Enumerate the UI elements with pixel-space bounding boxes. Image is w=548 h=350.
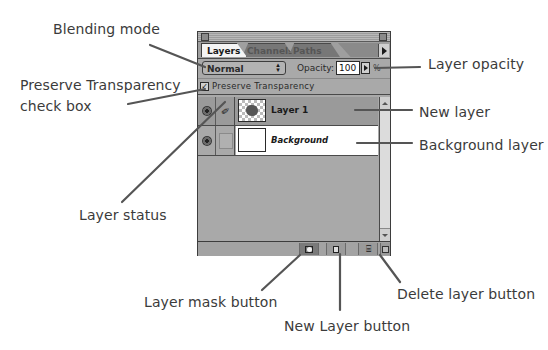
layer-row-layer-1[interactable]: ✐ Layer 1 [198,97,378,126]
layers-panel: Paths Channels Layers Normal ▴▾ Opacity:… [197,31,391,256]
opacity-input[interactable]: 100 [336,61,360,75]
scroll-up-arrow-icon[interactable] [380,97,390,110]
layer-thumbnail [238,99,266,122]
scroll-down-arrow-icon[interactable] [380,228,390,241]
preserve-transparency-checkbox[interactable]: ✓ [200,82,209,91]
visibility-toggle[interactable] [198,126,216,155]
blending-mode-select[interactable]: Normal ▴▾ [202,61,286,75]
resize-grip-icon [382,246,389,253]
zoom-box-icon[interactable] [379,33,387,41]
layer-name: Layer 1 [271,97,308,124]
tab-strip-fill [338,43,380,57]
visibility-toggle[interactable] [198,97,216,125]
mode-opacity-row: Normal ▴▾ Opacity: 100 % [198,59,390,79]
blending-mode-value: Normal [207,64,244,74]
callout-preserve-transparency-line1: Preserve Transparency [20,76,181,95]
layer-content: Background [236,126,378,155]
layer-thumbnail [238,128,266,152]
brush-icon: ✐ [220,105,230,117]
new-layer-icon [333,246,339,253]
preserve-transparency-label: Preserve Transparency [212,80,315,93]
new-layer-button[interactable] [326,243,346,255]
opacity-slider-arrow-icon[interactable] [361,62,370,74]
select-arrows-icon: ▴▾ [274,63,282,73]
callout-delete-layer-button: Delete layer button [397,285,535,304]
opacity-percent-sign: % [373,62,381,75]
layer-mask-button[interactable] [299,243,319,255]
tab-channels[interactable]: Channels [242,43,294,57]
layer-row-background[interactable]: Background [198,126,378,156]
close-box-icon[interactable] [201,33,209,41]
resize-handle[interactable] [380,243,390,255]
opacity-label: Opacity: [297,62,334,75]
callout-layer-mask-button: Layer mask button [144,293,277,312]
thumbnail-shape [246,105,258,116]
callout-new-layer: New layer [419,103,490,122]
trash-icon: ⌸ [366,244,371,254]
panel-bottom-bar: ⌸ [198,241,390,256]
layer-content: Layer 1 [236,97,378,125]
panel-menu-arrow-icon[interactable] [378,44,389,57]
empty-status-icon [219,133,233,149]
callout-layer-opacity: Layer opacity [428,55,524,74]
layer-list-scrollbar[interactable] [379,97,390,241]
callout-blending-mode: Blending mode [53,20,160,39]
mask-icon [305,246,313,253]
callout-layer-status: Layer status [79,206,167,225]
panel-title-bar[interactable] [198,32,390,42]
tab-layers[interactable]: Layers [201,43,247,57]
callout-background-layer: Background layer [419,136,544,155]
tab-paths[interactable]: Paths [288,43,340,57]
callout-new-layer-button: New Layer button [284,317,410,336]
layer-status-cell[interactable] [217,126,235,155]
preserve-transparency-row: ✓ Preserve Transparency [198,79,390,95]
callout-preserve-transparency-line2: check box [20,97,92,116]
layer-status-cell[interactable]: ✐ [217,97,235,125]
eye-icon [202,136,212,146]
layer-list: ✐ Layer 1 Background [198,97,378,241]
delete-layer-button[interactable]: ⌸ [358,243,378,255]
layer-name: Background [271,126,328,155]
eye-icon [202,106,212,116]
panel-tabs: Paths Channels Layers [198,42,390,59]
